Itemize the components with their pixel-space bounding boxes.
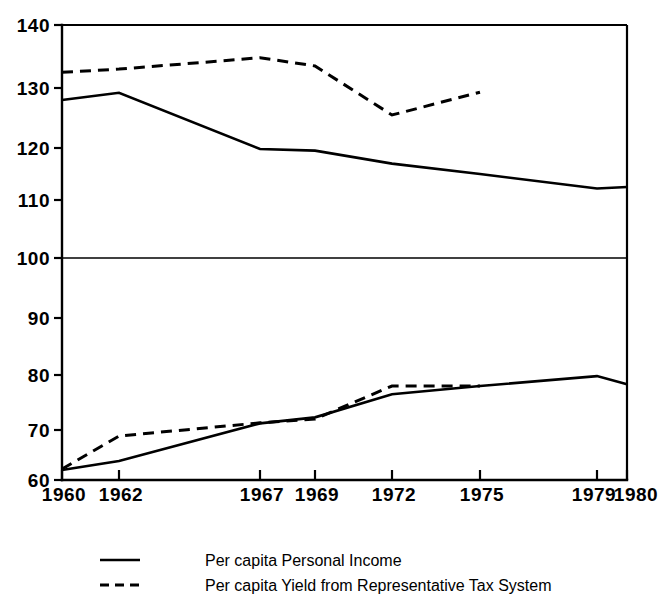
legend-label-rts-yield: Per capita Yield from Representative Tax… [205, 577, 552, 594]
x-tick-label-1972: 1972 [372, 484, 416, 505]
y-tick-label-130: 130 [17, 78, 50, 99]
x-tick-label-1980: 1980 [614, 484, 658, 505]
y-tick-label-110: 110 [18, 190, 50, 211]
y-tick-label-90: 90 [28, 308, 50, 329]
legend-label-personal-income: Per capita Personal Income [205, 552, 402, 569]
y-tick-label-100: 100 [17, 248, 50, 269]
x-tick-label-1979: 1979 [572, 484, 616, 505]
y-tick-label-80: 80 [28, 365, 50, 386]
line-chart-canvas: 140 130 120 110 100 90 80 70 60 1960 196… [0, 0, 662, 614]
x-tick-label-1962: 1962 [99, 484, 143, 505]
chart-background [0, 0, 662, 614]
x-tick-label-1960: 1960 [42, 484, 86, 505]
x-tick-label-1975: 1975 [460, 484, 504, 505]
x-tick-label-1969: 1969 [295, 484, 339, 505]
x-tick-label-1967: 1967 [240, 484, 284, 505]
y-tick-label-120: 120 [17, 138, 50, 159]
y-tick-label-70: 70 [28, 420, 50, 441]
chart-figure: 140 130 120 110 100 90 80 70 60 1960 196… [0, 0, 662, 614]
y-tick-label-140: 140 [17, 15, 50, 36]
